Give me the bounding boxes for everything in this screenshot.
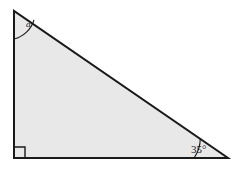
- triangle-figure: a 35°: [0, 0, 237, 172]
- apex-angle-label: a: [26, 19, 31, 29]
- base-angle-label: 35°: [191, 143, 206, 155]
- triangle-diagram: a 35°: [0, 0, 237, 172]
